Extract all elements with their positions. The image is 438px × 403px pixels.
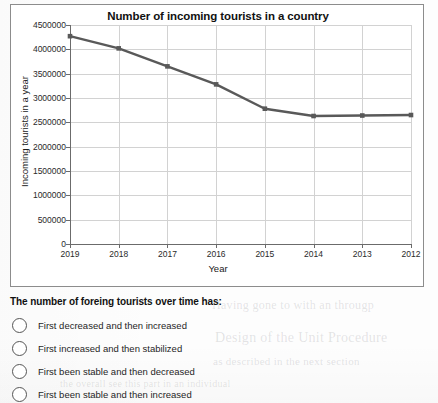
chart-card: Number of incoming tourists in a country… bbox=[10, 4, 424, 287]
answer-option-4[interactable]: First been stable and then increased bbox=[12, 383, 428, 403]
radio-button-icon[interactable] bbox=[12, 341, 27, 356]
gridline-vertical bbox=[411, 25, 412, 244]
answer-option-label: First decreased and then increased bbox=[38, 320, 187, 331]
data-point-marker bbox=[311, 114, 316, 119]
y-tick-label: 0 bbox=[0, 239, 66, 249]
y-tick-label: 3500000 bbox=[0, 69, 66, 79]
answer-option-2[interactable]: First increased and then stabilized bbox=[12, 337, 428, 360]
x-tick-label: 2019 bbox=[50, 249, 90, 259]
plot-area: 0500000100000015000002000000250000030000… bbox=[70, 25, 411, 244]
data-point-marker bbox=[360, 113, 365, 118]
answer-option-3[interactable]: First been stable and then decreased bbox=[12, 360, 428, 383]
y-tick-label: 1500000 bbox=[0, 166, 66, 176]
data-point-marker bbox=[165, 64, 170, 69]
y-tick-label: 2000000 bbox=[0, 142, 66, 152]
data-point-marker bbox=[263, 106, 268, 111]
y-tick-label: 2500000 bbox=[0, 117, 66, 127]
x-tick-label: 2013 bbox=[342, 249, 382, 259]
x-tick-label: 2018 bbox=[99, 249, 139, 259]
data-point-marker bbox=[116, 46, 121, 51]
answer-option-label: First been stable and then increased bbox=[38, 389, 192, 400]
y-tick-label: 4000000 bbox=[0, 44, 66, 54]
radio-button-icon[interactable] bbox=[12, 387, 27, 402]
series-line bbox=[70, 36, 411, 116]
y-tick-label: 3000000 bbox=[0, 93, 66, 103]
tourists-line-series bbox=[70, 25, 411, 245]
data-point-marker bbox=[68, 34, 73, 39]
y-tick-label: 500000 bbox=[0, 215, 66, 225]
data-point-marker bbox=[214, 82, 219, 87]
radio-button-icon[interactable] bbox=[12, 364, 27, 379]
x-tick-mark bbox=[411, 244, 412, 248]
x-tick-label: 2012 bbox=[391, 249, 431, 259]
x-tick-label: 2014 bbox=[294, 249, 334, 259]
x-axis-title: Year bbox=[11, 263, 425, 274]
x-tick-label: 2016 bbox=[196, 249, 236, 259]
x-tick-label: 2015 bbox=[245, 249, 285, 259]
chart-title: Number of incoming tourists in a country bbox=[11, 10, 425, 22]
answer-options-list: First decreased and then increasedFirst … bbox=[8, 314, 428, 403]
answer-option-1[interactable]: First decreased and then increased bbox=[12, 314, 428, 337]
answer-option-label: First been stable and then decreased bbox=[38, 366, 195, 377]
y-tick-label: 1000000 bbox=[0, 190, 66, 200]
data-point-marker bbox=[409, 113, 414, 118]
x-tick-label: 2017 bbox=[147, 249, 187, 259]
question-prompt: The number of foreing tourists over time… bbox=[10, 296, 428, 307]
question-block: The number of foreing tourists over time… bbox=[8, 296, 428, 403]
radio-button-icon[interactable] bbox=[12, 318, 27, 333]
answer-option-label: First increased and then stabilized bbox=[38, 343, 182, 354]
y-tick-label: 4500000 bbox=[0, 20, 66, 30]
y-axis-title: Incoming tourists in a year bbox=[19, 62, 30, 202]
